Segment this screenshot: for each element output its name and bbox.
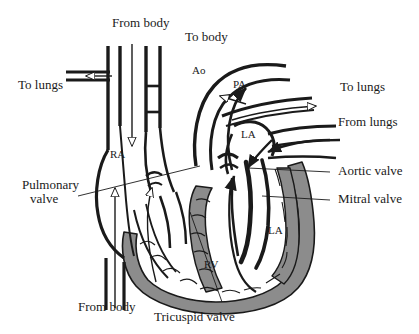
label-chamber-right-atrium: RA xyxy=(110,148,125,161)
label-pulmonary-valve-line2: valve xyxy=(30,192,58,207)
label-to-body: To body xyxy=(185,30,228,45)
mitral-valve-leaflet xyxy=(241,162,251,262)
la-inflow-arrow xyxy=(248,140,272,168)
label-aortic-valve: Aortic valve xyxy=(338,164,403,179)
label-vessel-aorta: Ao xyxy=(192,64,205,77)
label-vessel-pulmonary-artery: PA xyxy=(233,78,246,91)
label-tricuspid-valve: Tricuspid valve xyxy=(154,310,235,325)
heart-anatomy-figure: From body To body To lungs To lungs From… xyxy=(0,0,419,334)
right-heart-vessels xyxy=(66,46,174,310)
label-chamber-left-atrium-upper: LA xyxy=(241,128,256,141)
lv-outflow-arrow xyxy=(232,176,238,256)
label-from-lungs: From lungs xyxy=(338,115,398,130)
label-to-lungs-right: To lungs xyxy=(340,80,385,95)
great-vessel-arches xyxy=(195,65,340,170)
label-mitral-valve: Mitral valve xyxy=(338,192,402,207)
label-chamber-left-atrium-lower: LA xyxy=(268,224,283,237)
tricuspid-valve-leaflet xyxy=(160,196,170,248)
pulmonary-valve-cusp xyxy=(146,172,162,176)
label-from-body-top: From body xyxy=(112,16,169,31)
label-from-body-bottom: From body xyxy=(78,300,135,315)
label-chamber-right-ventricle: RV xyxy=(204,258,218,271)
label-to-lungs-left: To lungs xyxy=(18,78,63,93)
